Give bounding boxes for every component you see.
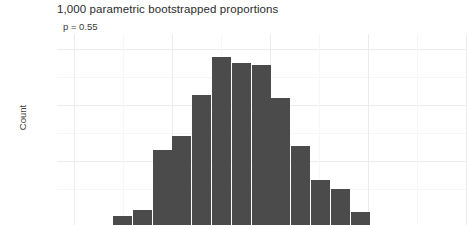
- histogram-bar: [192, 95, 211, 225]
- gridline-x-0: [74, 34, 75, 225]
- gridline-minor-x-3: [417, 34, 418, 225]
- gridline-x-3: [368, 34, 369, 225]
- histogram-bar: [351, 212, 370, 225]
- histogram-bar: [113, 216, 132, 225]
- gridline-y-150: [57, 49, 467, 50]
- chart-title: 1,000 parametric bootstrapped proportion…: [57, 3, 278, 15]
- histogram-bar: [232, 63, 251, 225]
- histogram-bar: [133, 210, 152, 225]
- histogram-bar: [172, 136, 191, 225]
- y-axis-title: Count: [17, 88, 28, 148]
- histogram-bar: [212, 57, 231, 225]
- histogram-bar: [153, 150, 172, 225]
- histogram-bar: [331, 189, 350, 225]
- gridline-minor-x-0: [123, 34, 124, 225]
- histogram-bar: [311, 180, 330, 225]
- plot-area: [57, 34, 467, 225]
- histogram-bar: [291, 146, 310, 225]
- histogram-bar: [252, 65, 271, 225]
- histogram-chart: 1,000 parametric bootstrapped proportion…: [0, 0, 467, 225]
- histogram-bar: [271, 98, 290, 225]
- chart-subtitle: p = 0.55: [63, 21, 98, 32]
